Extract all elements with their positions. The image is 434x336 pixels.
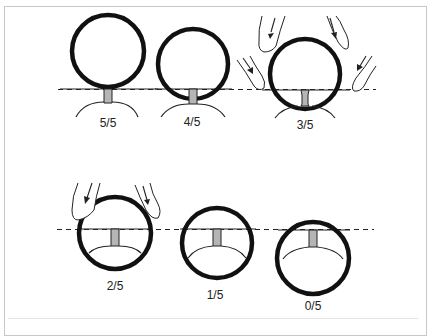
ring [72,15,144,87]
base-arc [283,247,343,259]
stage-2-of-5: 2/5 [72,183,160,293]
stage-label: 5/5 [100,116,117,130]
base-arc [188,246,246,258]
finger-upper-right [327,16,349,49]
finger-right [135,183,160,218]
finger-lower-right [352,56,376,91]
stage-4-of-5: 4/5 [155,29,232,129]
stage-label: 1/5 [207,288,224,302]
stage-label: 3/5 [297,118,314,132]
finger-left [72,183,100,220]
stage-3-of-5: 3/5 [237,16,376,132]
stage-0-of-5: 0/5 [277,222,350,313]
neck-connector [309,230,317,247]
stage-label: 0/5 [305,299,322,313]
neck-connector [213,229,221,246]
arrow-icon [331,32,337,39]
stage-label: 2/5 [107,279,124,293]
base-arc [76,102,138,117]
stage-1-of-5: 1/5 [180,208,256,302]
neck-connector [111,229,119,246]
stage-5-of-5: 5/5 [60,15,158,130]
finger-lower-left [237,56,265,90]
stage-label: 4/5 [184,115,201,129]
neck-connector [301,90,309,106]
base-arc [89,246,141,253]
neck-connector [189,89,197,104]
neck-connector [104,89,112,103]
